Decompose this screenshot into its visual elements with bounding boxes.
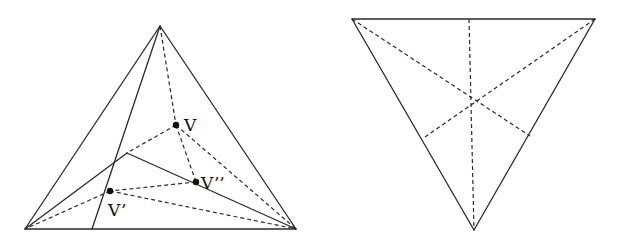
- dashed-edge: [110, 182, 196, 191]
- right-triangle-figure: [352, 19, 595, 230]
- V-double-prime-label: V’’: [200, 173, 225, 193]
- V-label: V: [183, 115, 197, 135]
- dashed-edge: [425, 19, 595, 137]
- V-double-prime-point: [193, 179, 199, 185]
- solid-edge: [92, 26, 160, 229]
- left-triangle-figure: VV’’V’: [25, 26, 296, 229]
- dashed-edge: [469, 19, 474, 230]
- V-prime-label: V’: [107, 200, 126, 220]
- V-prime-point: [107, 188, 113, 194]
- dashed-edge: [110, 191, 296, 229]
- dashed-edge: [352, 19, 530, 136]
- V-point: [173, 122, 179, 128]
- dashed-edge: [127, 125, 176, 153]
- solid-edge: [25, 26, 160, 229]
- diagram-canvas: VV’’V’: [0, 0, 620, 247]
- solid-edge: [352, 19, 474, 230]
- solid-edge: [474, 19, 595, 230]
- dashed-edge: [160, 26, 176, 125]
